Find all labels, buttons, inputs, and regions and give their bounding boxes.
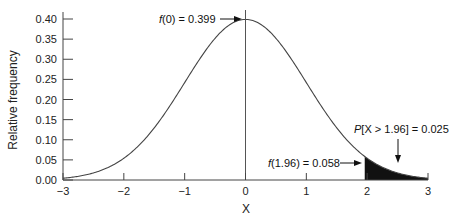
annotation-tail-probability: P[X > 1.96] = 0.025 [354,123,449,163]
y-tick-label: 0.30 [36,53,57,65]
x-tick-label: 2 [364,185,370,197]
y-tick-label: 0.40 [36,13,57,25]
x-tick-label: 0 [242,185,248,197]
x-tick-label: −1 [178,185,191,197]
y-tick-label: 0.05 [36,154,57,166]
y-axis: 0.000.050.100.150.200.250.300.350.40 [36,12,73,186]
y-tick-label: 0.20 [36,94,57,106]
arrow-icon [395,155,401,163]
y-axis-title: Relative frequency [6,50,20,149]
x-axis-title: X [242,202,250,216]
annotation-f196: f(1.96) = 0.058 [268,157,362,169]
svg-text:P[X > 1.96] = 0.025: P[X > 1.96] = 0.025 [354,123,449,135]
x-tick-label: −3 [57,185,70,197]
svg-text:f(0) = 0.399: f(0) = 0.399 [159,13,216,25]
annotation-peak: f(0) = 0.399 [159,13,242,25]
svg-text:f(1.96) = 0.058: f(1.96) = 0.058 [268,157,340,169]
y-tick-label: 0.25 [36,73,57,85]
y-tick-label: 0.10 [36,134,57,146]
y-tick-label: 0.15 [36,114,57,126]
y-tick-label: 0.00 [36,174,57,186]
arrow-icon [354,160,362,166]
x-tick-label: 1 [303,185,309,197]
shaded-tail-area [365,156,428,180]
y-tick-label: 0.35 [36,33,57,45]
x-tick-label: −2 [118,185,131,197]
normal-distribution-chart: 0.000.050.100.150.200.250.300.350.40 −3−… [0,0,459,219]
x-tick-label: 3 [425,185,431,197]
